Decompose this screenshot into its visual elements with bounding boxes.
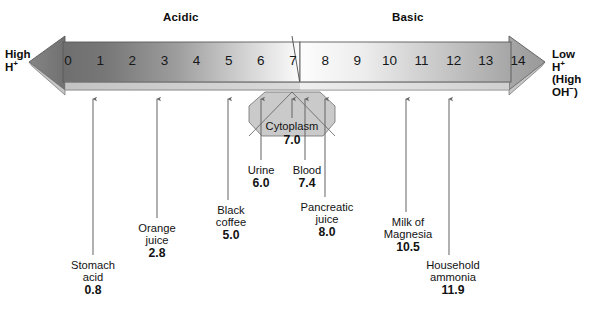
left-end-caption: High H+ <box>5 48 31 73</box>
ph-tick-2: 2 <box>120 53 144 68</box>
callout-name-line2: coffee <box>216 216 246 228</box>
cytoplasm-value: 7.0 <box>266 133 319 147</box>
callout-milk-of-magnesia: Milk ofMagnesia10.5 <box>384 216 433 254</box>
callout-ph-value: 7.4 <box>293 177 322 189</box>
callout-name-line1: Black <box>216 204 246 216</box>
ph-tick-7: 7 <box>281 53 305 68</box>
callout-household-ammonia: Householdammonia11.9 <box>426 259 480 297</box>
cytoplasm-name: Cytoplasm <box>266 120 319 132</box>
callout-name-line1: Urine <box>248 164 275 176</box>
callout-name-line2: ammonia <box>426 271 480 283</box>
ph-tick-1: 1 <box>88 53 112 68</box>
ph-scale-figure: Acidic Basic High H+ Low H+ (High OH−) 0… <box>0 0 592 317</box>
callout-ph-value: 5.0 <box>216 229 246 241</box>
callout-pancreatic-juice: Pancreaticjuice8.0 <box>301 201 354 239</box>
callout-name-line1: Household <box>426 259 480 271</box>
right-end-line4-tail: ) <box>574 86 578 98</box>
ph-tick-13: 13 <box>474 53 498 68</box>
callout-urine: Urine6.0 <box>248 164 275 189</box>
region-label-acidic: Acidic <box>163 11 199 23</box>
ph-tick-4: 4 <box>185 53 209 68</box>
ph-tick-11: 11 <box>410 53 434 68</box>
right-end-charge: + <box>560 59 565 68</box>
callout-name-line1: Orange <box>138 222 175 234</box>
callout-name-line2: Magnesia <box>384 228 433 240</box>
cytoplasm-callout: Cytoplasm 7.0 <box>266 120 319 147</box>
callout-name-line2: juice <box>301 213 354 225</box>
ph-tick-9: 9 <box>345 53 369 68</box>
right-end-line4: OH <box>552 86 569 98</box>
callout-ph-value: 10.5 <box>384 241 433 253</box>
right-end-line3: (High <box>552 73 581 85</box>
callout-name-line2: acid <box>71 271 115 283</box>
callout-ph-value: 2.8 <box>138 247 175 259</box>
callout-black-coffee: Blackcoffee5.0 <box>216 204 246 242</box>
callout-ph-value: 0.8 <box>71 284 115 296</box>
callout-ph-value: 11.9 <box>426 284 480 296</box>
callout-name-line1: Milk of <box>384 216 433 228</box>
region-label-basic: Basic <box>392 11 424 23</box>
bar-shadow-strip-right <box>300 82 509 90</box>
callout-name-line1: Blood <box>293 164 322 176</box>
ph-tick-12: 12 <box>442 53 466 68</box>
callout-orange-juice: Orangejuice2.8 <box>138 222 175 260</box>
ph-tick-10: 10 <box>377 53 401 68</box>
ph-tick-14: 14 <box>506 53 530 68</box>
ph-tick-5: 5 <box>217 53 241 68</box>
callout-name-line2: juice <box>138 234 175 246</box>
callout-ph-value: 6.0 <box>248 177 275 189</box>
callout-ph-value: 8.0 <box>301 226 354 238</box>
callout-stomach-acid: Stomachacid0.8 <box>71 259 115 297</box>
ph-tick-6: 6 <box>249 53 273 68</box>
callout-name-line1: Stomach <box>71 259 115 271</box>
ph-tick-0: 0 <box>56 53 80 68</box>
right-end-caption: Low H+ (High OH−) <box>552 48 581 98</box>
callout-blood: Blood7.4 <box>293 164 322 189</box>
callout-name-line1: Pancreatic <box>301 201 354 213</box>
ph-tick-3: 3 <box>152 53 176 68</box>
left-end-charge: + <box>13 59 18 68</box>
ph-tick-8: 8 <box>313 53 337 68</box>
